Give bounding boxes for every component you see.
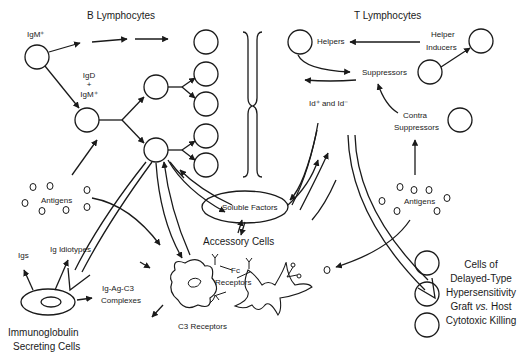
helper-t-cell bbox=[288, 30, 312, 54]
igm-label-2: IgM⁺ bbox=[76, 90, 102, 99]
c3-receptors-label: C3 Receptors bbox=[178, 322, 227, 331]
plasma-cell-5 bbox=[194, 153, 218, 177]
plasma-cell-1 bbox=[194, 30, 218, 54]
ig-ag-c3-label: Ig-Ag-C3 bbox=[102, 284, 134, 293]
effector-cell-1 bbox=[415, 251, 439, 275]
vs-text: vs. bbox=[475, 301, 488, 312]
immune-interaction-diagram: B Lymphocytes T Lymphocytes IgM⁺ IgD + I… bbox=[0, 0, 525, 357]
igd-label: IgD bbox=[78, 71, 100, 80]
helpers-label: Helpers bbox=[317, 37, 345, 46]
accessory-cells-label: Accessory Cells bbox=[203, 236, 274, 248]
effector-line-1: Cells of bbox=[441, 259, 521, 271]
effector-line-4: Graft vs. Host bbox=[441, 301, 521, 313]
b-cell-upper bbox=[144, 75, 168, 99]
antigens-left-label: Antigens bbox=[41, 196, 72, 205]
secreting-cells-label: Secreting Cells bbox=[13, 341, 80, 353]
contra-suppressors-label-2: Suppressors bbox=[394, 123, 439, 132]
contra-suppressor-cell bbox=[448, 108, 472, 132]
plasma-cell-3 bbox=[194, 92, 218, 116]
effector-line-3: Hypersensitivity bbox=[441, 287, 521, 299]
helper-inducers-label-1: Helper bbox=[431, 30, 455, 39]
plasma-cell-4 bbox=[194, 124, 218, 148]
igs-label: Igs bbox=[18, 251, 29, 260]
plus-label: + bbox=[78, 80, 100, 89]
host-text: Host bbox=[488, 301, 511, 312]
helper-inducer-cell bbox=[469, 29, 493, 53]
igm-label: IgM⁺ bbox=[27, 30, 44, 39]
igm-b-cell bbox=[25, 45, 49, 69]
idiotype-label: Id⁺ and Id⁻ bbox=[309, 99, 348, 108]
antigens-right-label: Antigens bbox=[404, 197, 435, 206]
graft-text: Graft bbox=[450, 301, 475, 312]
complexes-label: Complexes bbox=[101, 296, 141, 305]
b-lymphocytes-title: B Lymphocytes bbox=[87, 10, 155, 22]
suppressor-t-cell bbox=[418, 60, 442, 84]
suppressors-label: Suppressors bbox=[362, 68, 407, 77]
contra-suppressors-label-1: Contra bbox=[403, 111, 427, 120]
ig-idiotypes-label: Ig Idiotypes bbox=[50, 245, 91, 254]
plasma-cell-2 bbox=[194, 62, 218, 86]
receptors-label: Receptors bbox=[215, 278, 251, 287]
helper-inducers-label-2: Inducers bbox=[426, 43, 457, 52]
effector-cell-3 bbox=[415, 313, 439, 337]
effector-line-5: Cytotoxic Killing bbox=[441, 315, 521, 327]
effector-line-2: Delayed-Type bbox=[441, 273, 521, 285]
fc-label: Fc bbox=[231, 266, 240, 275]
secreting-cell bbox=[21, 289, 75, 315]
igd-igm-b-cell bbox=[75, 108, 99, 132]
t-lymphocytes-title: T Lymphocytes bbox=[354, 10, 421, 22]
soluble-factors-label: Soluble Factors bbox=[222, 203, 278, 212]
immunoglobulin-label: Immunoglobulin bbox=[8, 327, 79, 339]
b-cell-lower bbox=[144, 138, 168, 162]
